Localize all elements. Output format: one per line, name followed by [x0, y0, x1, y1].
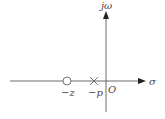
pole-zero-diagram: jω σ O −z −p	[0, 0, 165, 119]
imaginary-axis-arrow-icon	[103, 11, 109, 19]
pole-label: −p	[88, 87, 103, 98]
imaginary-axis-label: jω	[99, 0, 112, 11]
origin-label: O	[108, 84, 116, 95]
zero-label: −z	[61, 87, 75, 98]
zero-marker-icon	[63, 77, 71, 85]
real-axis-arrow-icon	[138, 78, 146, 84]
real-axis-label: σ	[149, 76, 157, 87]
